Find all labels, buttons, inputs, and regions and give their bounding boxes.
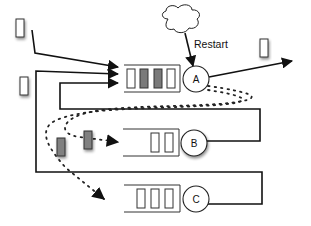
departure-arrow <box>209 61 292 77</box>
cloud-icon <box>162 5 199 33</box>
queue-a <box>124 65 180 92</box>
feedback-from-c-arrow <box>36 71 262 204</box>
queue-b <box>123 129 179 156</box>
queue-a-slot-2 <box>140 69 148 88</box>
queue-c-slot-3 <box>165 189 173 208</box>
arrival-arrow <box>32 30 118 67</box>
queue-a-slot-1 <box>127 69 135 88</box>
queue-c-slot-2 <box>151 189 159 208</box>
restart-arrow <box>185 33 193 66</box>
queue-a-slot-3 <box>154 69 162 88</box>
queue-a-slot-4 <box>167 69 175 88</box>
incoming-job-icon <box>16 19 24 37</box>
route-a-to-c <box>46 90 243 199</box>
queue-c-slot-1 <box>137 189 145 208</box>
transit-job-icon <box>84 131 92 149</box>
server-a-label: A <box>193 74 200 85</box>
transit-job-icon <box>57 138 65 156</box>
waiting-job-icon <box>20 77 28 95</box>
queue-b-slot-2 <box>165 133 173 152</box>
queue-b-slot-1 <box>151 133 159 152</box>
queueing-diagram: Restart A B C <box>0 0 311 226</box>
queue-c <box>124 185 180 212</box>
restart-label: Restart <box>194 38 228 50</box>
server-c-label: C <box>192 194 199 205</box>
server-b-label: B <box>191 138 198 149</box>
completed-job-icon <box>260 39 268 57</box>
